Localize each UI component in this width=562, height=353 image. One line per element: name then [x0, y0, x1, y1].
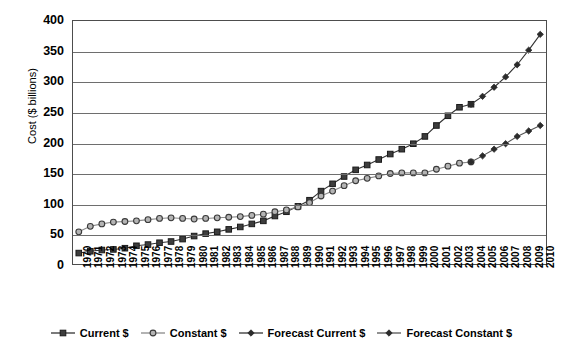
y-tick-150: 150 — [22, 167, 64, 180]
x-tick-2001: 2001 — [441, 246, 452, 268]
legend-label: Forecast Constant $ — [406, 327, 512, 339]
legend-item-3[interactable]: Forecast Constant $ — [376, 327, 512, 339]
x-tick-2009: 2009 — [534, 246, 545, 268]
x-tick-1979: 1979 — [186, 246, 197, 268]
x-tick-1982: 1982 — [221, 246, 232, 268]
x-tick-2004: 2004 — [476, 246, 487, 268]
x-axis-tick-labels: 1970197119721973197419751976197719781979… — [72, 266, 547, 314]
legend-marker-diamond-filled — [238, 327, 264, 339]
y-tick-300: 300 — [22, 75, 64, 88]
x-tick-1986: 1986 — [267, 246, 278, 268]
legend-label: Constant $ — [170, 327, 227, 339]
x-tick-1973: 1973 — [117, 246, 128, 268]
series-0 — [76, 101, 474, 255]
x-tick-1993: 1993 — [348, 246, 359, 268]
x-tick-2000: 2000 — [429, 246, 440, 268]
x-tick-1980: 1980 — [198, 246, 209, 268]
x-tick-1974: 1974 — [128, 246, 139, 268]
x-tick-1976: 1976 — [151, 246, 162, 268]
x-tick-1994: 1994 — [360, 246, 371, 268]
legend-item-1[interactable]: Constant $ — [140, 327, 227, 339]
series-layer — [73, 21, 546, 264]
x-tick-2003: 2003 — [464, 246, 475, 268]
x-tick-2007: 2007 — [510, 246, 521, 268]
legend-item-2[interactable]: Forecast Current $ — [238, 327, 366, 339]
x-tick-1977: 1977 — [163, 246, 174, 268]
gridline-350 — [73, 52, 546, 53]
y-tick-100: 100 — [22, 198, 64, 211]
x-tick-2006: 2006 — [499, 246, 510, 268]
legend-item-0[interactable]: Current $ — [50, 327, 129, 339]
y-tick-200: 200 — [22, 136, 64, 149]
x-tick-1990: 1990 — [314, 246, 325, 268]
gridline-150 — [73, 174, 546, 175]
x-tick-1991: 1991 — [325, 246, 336, 268]
y-tick-350: 350 — [22, 44, 64, 57]
plot-area — [72, 20, 547, 265]
x-tick-1988: 1988 — [290, 246, 301, 268]
y-axis-tick-labels: 050100150200250300350400 — [22, 8, 64, 266]
y-tick-400: 400 — [22, 14, 64, 27]
legend-marker-circle-open — [140, 327, 166, 339]
x-tick-1985: 1985 — [256, 246, 267, 268]
legend-marker-diamond-filled — [376, 327, 402, 339]
x-tick-1989: 1989 — [302, 246, 313, 268]
chart-legend: Current $Constant $Forecast Current $For… — [0, 322, 562, 344]
series-2 — [468, 31, 544, 107]
series-1 — [76, 159, 474, 235]
x-tick-2008: 2008 — [522, 246, 533, 268]
legend-label: Forecast Current $ — [268, 327, 366, 339]
x-tick-1978: 1978 — [174, 246, 185, 268]
x-tick-1998: 1998 — [406, 246, 417, 268]
gridline-200 — [73, 144, 546, 145]
x-tick-1999: 1999 — [418, 246, 429, 268]
x-tick-1981: 1981 — [209, 246, 220, 268]
x-tick-1984: 1984 — [244, 246, 255, 268]
gridline-300 — [73, 82, 546, 83]
chart-container: Cost ($ billions) 0501001502002503003504… — [0, 0, 562, 353]
x-tick-1995: 1995 — [371, 246, 382, 268]
x-tick-2002: 2002 — [453, 246, 464, 268]
gridline-250 — [73, 113, 546, 114]
y-tick-250: 250 — [22, 106, 64, 119]
legend-marker-square-filled — [50, 327, 76, 339]
x-tick-2010: 2010 — [545, 246, 556, 268]
y-tick-50: 50 — [22, 228, 64, 241]
x-tick-1972: 1972 — [105, 246, 116, 268]
x-tick-1971: 1971 — [93, 246, 104, 268]
x-tick-1983: 1983 — [232, 246, 243, 268]
x-tick-1987: 1987 — [279, 246, 290, 268]
gridline-50 — [73, 235, 546, 236]
x-tick-1970: 1970 — [82, 246, 93, 268]
x-tick-1975: 1975 — [140, 246, 151, 268]
x-tick-1992: 1992 — [337, 246, 348, 268]
gridline-100 — [73, 205, 546, 206]
x-tick-1996: 1996 — [383, 246, 394, 268]
x-tick-2005: 2005 — [487, 246, 498, 268]
legend-label: Current $ — [80, 327, 129, 339]
x-tick-1997: 1997 — [395, 246, 406, 268]
y-tick-0: 0 — [22, 259, 64, 272]
